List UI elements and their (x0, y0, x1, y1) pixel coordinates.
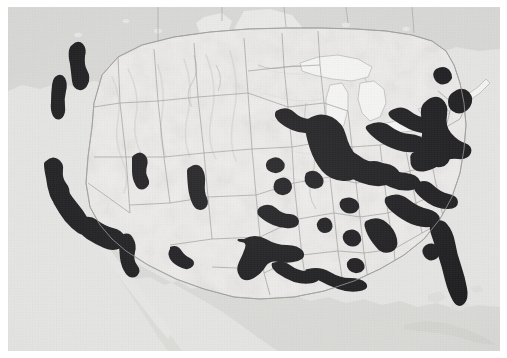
corridor-willamette (51, 75, 67, 120)
united-states-map (8, 7, 500, 351)
map-frame (8, 7, 500, 351)
map-figure-page (0, 0, 507, 358)
